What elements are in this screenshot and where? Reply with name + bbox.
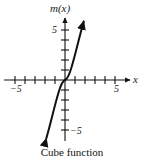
x-axis-label: x <box>133 74 138 85</box>
y-tick-label-negative-5: −5 <box>70 126 82 136</box>
x-tick-label-positive-5: 5 <box>114 84 119 94</box>
graph-canvas <box>0 0 144 161</box>
x-tick-label-negative-5: −5 <box>10 84 22 94</box>
cube-function-figure: m(x) x −5 5 5 −5 Cube function <box>0 0 144 161</box>
figure-caption: Cube function <box>0 146 144 158</box>
y-axis-label: m(x) <box>50 3 70 14</box>
y-tick-label-positive-5: 5 <box>52 25 57 35</box>
